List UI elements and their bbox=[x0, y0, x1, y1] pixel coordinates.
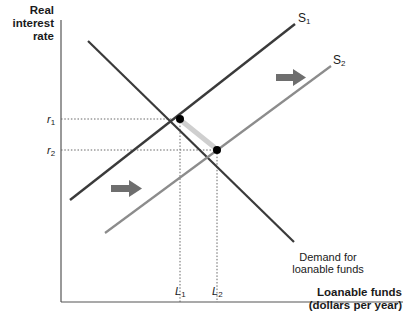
l2-label: L2 bbox=[212, 285, 223, 301]
s2-label: S2 bbox=[333, 54, 345, 70]
shift-arrow-upper-icon bbox=[276, 69, 306, 86]
demand-curve bbox=[88, 41, 294, 242]
y-axis-label: Real interest rate bbox=[2, 4, 54, 43]
shift-arrow-lower-icon bbox=[111, 180, 142, 197]
supply-curve-s1 bbox=[70, 24, 295, 200]
x-axis-label: Loanable funds (dollars per year) bbox=[309, 286, 402, 312]
demand-label: Demand for loanable funds bbox=[286, 251, 370, 275]
r1-label: r1 bbox=[47, 113, 55, 129]
r2-label: r2 bbox=[47, 144, 55, 160]
s1-label: S1 bbox=[298, 12, 310, 28]
equilibrium-point-1 bbox=[176, 115, 184, 123]
equilibrium-point-2 bbox=[213, 146, 221, 154]
l1-label: L1 bbox=[175, 285, 186, 301]
movement-highlight bbox=[183, 122, 214, 147]
